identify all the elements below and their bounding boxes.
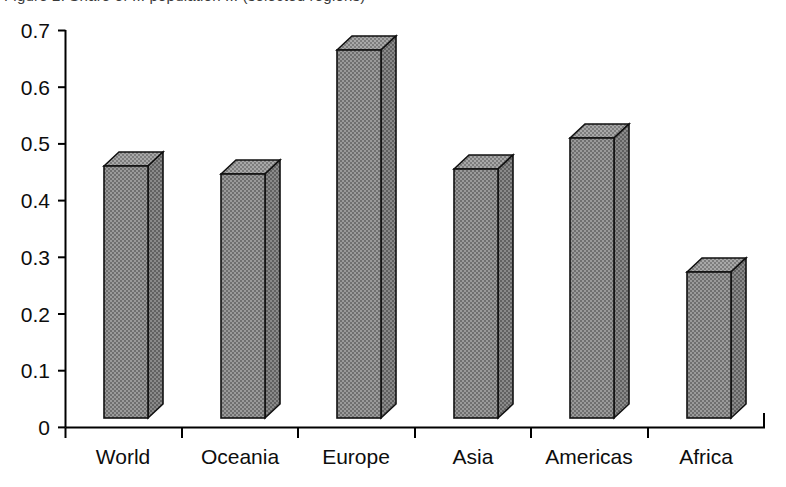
bar-africa bbox=[687, 258, 746, 418]
xtick-label-world: World bbox=[64, 446, 182, 467]
ytick-label-0.3: 0.3 bbox=[4, 247, 50, 268]
ytick-label-0.4: 0.4 bbox=[4, 190, 50, 211]
chart-figure: Figure 2. Share of ... population ... (s… bbox=[0, 0, 786, 487]
bar-americas bbox=[570, 124, 629, 418]
bar-europe bbox=[337, 36, 396, 418]
xtick-label-oceania: Oceania bbox=[181, 446, 299, 467]
xtick-label-africa: Africa bbox=[647, 446, 765, 467]
ytick-label-0.7: 0.7 bbox=[4, 20, 50, 41]
xtick-label-americas: Americas bbox=[530, 446, 648, 467]
xtick-label-asia: Asia bbox=[414, 446, 532, 467]
plot-area: 0.7 0.6 0.5 0.4 0.3 0.2 0.1 0 World Ocea… bbox=[0, 0, 786, 487]
ytick-label-0.6: 0.6 bbox=[4, 77, 50, 98]
bar-asia bbox=[454, 155, 513, 418]
ytick-label-0.5: 0.5 bbox=[4, 133, 50, 154]
bar-oceania bbox=[221, 160, 280, 418]
ytick-label-0: 0 bbox=[4, 417, 50, 438]
bar-world bbox=[104, 152, 163, 418]
ytick-label-0.2: 0.2 bbox=[4, 304, 50, 325]
xtick-label-europe: Europe bbox=[297, 446, 415, 467]
ytick-label-0.1: 0.1 bbox=[4, 360, 50, 381]
bars-layer bbox=[0, 0, 786, 487]
